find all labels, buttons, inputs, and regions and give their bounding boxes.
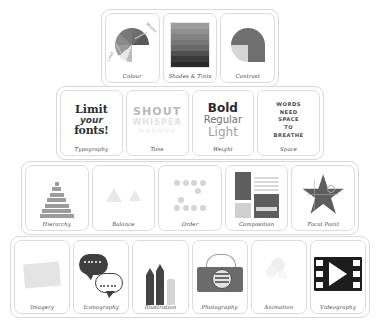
triangle-large-icon	[106, 188, 122, 202]
motion-circles-icon	[257, 252, 301, 296]
card-animation[interactable]: Animation	[251, 240, 307, 314]
contrast-circle-icon	[227, 24, 269, 66]
card-hierarchy[interactable]: Hierarchy	[25, 165, 89, 231]
card-caption: Photography	[202, 305, 238, 311]
imagery-art	[17, 244, 67, 305]
card-colour[interactable]: Warm Cool Colour	[105, 13, 160, 83]
space-line-3: SPACE	[278, 116, 299, 124]
typography-art: Limit your fonts!	[63, 94, 120, 147]
cool-label: Cool	[108, 51, 115, 62]
speech-bubbles-icon	[78, 252, 124, 296]
card-caption: Order	[182, 222, 199, 228]
card-contrast[interactable]: Contrast	[220, 13, 275, 83]
space-line-1: WORDS	[276, 101, 301, 109]
space-text: WORDS NEED SPACE TO BREATHE	[274, 101, 304, 140]
card-caption: Tone	[150, 147, 163, 153]
space-line-2: NEED	[280, 109, 298, 117]
pencil-icon-2	[156, 271, 164, 305]
card-caption: Imagery	[30, 305, 53, 311]
card-typography[interactable]: Limit your fonts! Typography	[60, 90, 123, 156]
card-caption: Videography	[320, 305, 356, 311]
limit-fonts-text: Limit your fonts!	[74, 104, 108, 136]
tone-art: SHOUT WHISPER MURMUR	[129, 94, 186, 147]
space-line-4: TO	[284, 124, 293, 132]
typography-row: Limit your fonts! Typography SHOUT WHISP…	[56, 86, 324, 160]
design-pyramid-diagram: Warm Cool Colour Shades & Tints	[0, 0, 379, 329]
hierarchy-art	[28, 169, 86, 222]
illustration-art	[135, 244, 185, 305]
media-row: Imagery Iconography Illustration	[10, 236, 370, 318]
card-caption: Hierarchy	[43, 222, 71, 228]
order-art	[161, 169, 219, 222]
composition-art	[228, 169, 286, 222]
pencil-icon-1	[146, 275, 154, 305]
card-caption: Iconography	[84, 305, 119, 311]
space-line-5: BREATHE	[274, 132, 304, 140]
weight-line-2: Regular	[204, 115, 242, 126]
card-imagery[interactable]: Imagery	[14, 240, 70, 314]
contrast-dark-half	[231, 28, 265, 45]
photo-rectangle-icon	[20, 252, 64, 296]
card-order[interactable]: Order	[158, 165, 222, 231]
card-caption: Balance	[112, 222, 135, 228]
card-shades-tints[interactable]: Shades & Tints	[163, 13, 218, 83]
contrast-dark-quarter	[248, 45, 265, 62]
card-caption: Composition	[239, 222, 274, 228]
videography-art	[313, 244, 363, 305]
wheel-notch	[132, 45, 149, 62]
card-caption: Contrast	[235, 74, 260, 80]
card-composition[interactable]: Composition	[225, 165, 289, 231]
card-iconography[interactable]: Iconography	[73, 240, 129, 314]
card-caption: Space	[280, 147, 297, 153]
card-balance[interactable]: Balance	[92, 165, 156, 231]
card-photography[interactable]: Photography	[192, 240, 248, 314]
camera-icon	[196, 252, 244, 296]
iconography-art	[76, 244, 126, 305]
gradient-art	[166, 17, 215, 74]
card-videography[interactable]: Videography	[310, 240, 366, 314]
stacked-pyramid-icon	[40, 172, 74, 218]
layout-row: Hierarchy Balance Order	[21, 161, 359, 235]
grayscale-gradient-icon	[170, 22, 210, 68]
card-caption: Shades & Tints	[168, 74, 211, 80]
card-caption: Illustration	[145, 305, 177, 311]
weight-line-3: Light	[208, 126, 238, 139]
colour-wheel-art: Warm Cool	[108, 17, 157, 74]
card-space[interactable]: WORDS NEED SPACE TO BREATHE Space	[257, 90, 320, 156]
card-caption: Typography	[75, 147, 109, 153]
animation-art	[254, 244, 304, 305]
balance-art	[95, 169, 153, 222]
contrast-light-quarter	[231, 45, 248, 62]
card-tone[interactable]: SHOUT WHISPER MURMUR Tone	[126, 90, 189, 156]
space-art: WORDS NEED SPACE TO BREATHE	[260, 94, 317, 147]
contrast-art	[223, 17, 272, 74]
colour-wheel-icon: Warm Cool	[109, 22, 155, 68]
tone-line-1: SHOUT	[133, 106, 181, 118]
triangle-small-icon	[129, 190, 141, 201]
weight-art: Bold Regular Light	[195, 94, 252, 147]
card-caption: Focal Point	[307, 222, 338, 228]
tone-line-3: MURMUR	[138, 128, 176, 135]
colour-row: Warm Cool Colour Shades & Tints	[101, 9, 279, 87]
pencil-icon-3	[167, 279, 175, 305]
card-caption: Weight	[213, 147, 233, 153]
typo-line-3: fonts!	[74, 125, 108, 136]
card-focal-point[interactable]: Focal Point	[291, 165, 355, 231]
focal-point-art	[294, 169, 352, 222]
card-weight[interactable]: Bold Regular Light Weight	[192, 90, 255, 156]
star-icon	[301, 173, 345, 217]
card-caption: Colour	[123, 74, 142, 80]
dot-grid-icon	[174, 180, 206, 212]
film-play-icon	[314, 257, 362, 291]
weight-text: Bold Regular Light	[204, 102, 242, 138]
card-illustration[interactable]: Illustration	[132, 240, 188, 314]
photography-art	[195, 244, 245, 305]
tone-text: SHOUT WHISPER MURMUR	[132, 106, 181, 134]
card-caption: Animation	[264, 305, 293, 311]
layout-blocks-icon	[235, 172, 279, 218]
